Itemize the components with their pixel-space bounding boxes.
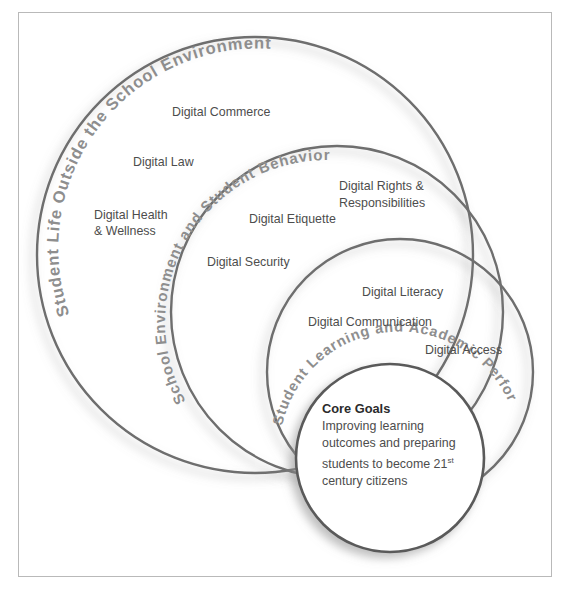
core-goals-line-3: students to become 21 bbox=[322, 457, 447, 471]
label-digital-literacy: Digital Literacy bbox=[362, 284, 443, 301]
label-digital-etiquette: Digital Etiquette bbox=[249, 211, 336, 228]
core-goals-line-1: Improving learning bbox=[322, 419, 424, 433]
label-digital-communication: Digital Communication bbox=[308, 314, 432, 331]
core-goals-line-2: outcomes and preparing bbox=[322, 436, 456, 450]
label-digital-rights-line1: Digital Rights & bbox=[339, 178, 424, 195]
label-digital-security: Digital Security bbox=[207, 254, 290, 271]
label-digital-health-wellness-line2: & Wellness bbox=[94, 223, 156, 240]
label-digital-health-wellness-line1: Digital Health bbox=[94, 207, 168, 224]
label-digital-access: Digital Access bbox=[425, 342, 502, 359]
venn-circles-svg: Student Life Outside the School Environm… bbox=[0, 0, 569, 594]
core-goals-line-4: century citizens bbox=[322, 474, 407, 488]
label-digital-rights-line2: Responsibilities bbox=[339, 195, 425, 212]
digital-citizenship-venn-diagram: Student Life Outside the School Environm… bbox=[0, 0, 569, 594]
core-goals-title: Core Goals bbox=[322, 400, 457, 417]
core-goals-body: Improving learning outcomes and preparin… bbox=[322, 418, 457, 490]
label-digital-law: Digital Law bbox=[133, 154, 194, 171]
core-goals-ordinal-suffix: st bbox=[447, 456, 453, 465]
label-digital-commerce: Digital Commerce bbox=[172, 104, 270, 121]
core-goals-text-block: Core Goals Improving learning outcomes a… bbox=[322, 400, 457, 490]
